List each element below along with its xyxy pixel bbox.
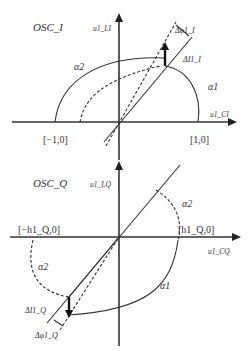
- point-left-label: [−1,0]: [43, 134, 68, 145]
- delta-phi-label: Δφ1_I: [174, 26, 195, 35]
- x-axis-label: u1_CQ: [208, 247, 230, 256]
- alpha2-left-label: α2: [38, 261, 48, 272]
- y-axis-arrowhead-icon: [115, 13, 123, 22]
- point-right-label: [1,0]: [190, 134, 209, 145]
- thick-diagonal-segment: [69, 237, 119, 297]
- delta-phi-label: Δφ1_Q: [34, 331, 58, 340]
- alpha2-label: α2: [74, 61, 84, 72]
- delta-i-label: ΔI1_Q: [24, 306, 46, 315]
- dashed-arc: [80, 66, 160, 122]
- y-axis-arrowhead-icon: [115, 161, 123, 170]
- x-axis-arrowhead-icon: [228, 118, 237, 126]
- alpha1-label: α1: [208, 81, 218, 92]
- title-osc-q: OSC_Q: [33, 177, 67, 189]
- point-left-label: [−h1_Q,0]: [18, 224, 60, 235]
- phase-diagram: OSC_I u1_LI α2 α1 Δφ1_I ΔI1_I u1_CI [−1,…: [0, 0, 251, 351]
- delta-i-label: ΔI1_I: [182, 55, 201, 64]
- dashed-diagonal: [106, 22, 176, 146]
- alpha2-right-dashed: [156, 190, 180, 240]
- bottom-panel-osc-q: OSC_Q u1_LQ α2 [h1_Q,0] [−h1_Q,0] u1_CQ …: [10, 161, 241, 346]
- delta-i-arrowhead-icon: [65, 310, 73, 318]
- x-axis-arrowhead-icon: [232, 233, 241, 241]
- y-axis-label: u1_LQ: [90, 180, 111, 189]
- alpha2-left-dashed: [31, 240, 69, 297]
- alpha1-label: α1: [160, 280, 170, 291]
- alpha2-curve: [55, 58, 165, 122]
- delta-phi-tick: [54, 320, 63, 326]
- alpha1-curve: [68, 240, 178, 315]
- title-osc-i: OSC_I: [33, 21, 64, 33]
- point-right-label: [h1_Q,0]: [178, 224, 214, 235]
- alpha2-right-label: α2: [182, 198, 192, 209]
- delta-i-arrowhead-icon: [161, 42, 169, 50]
- alpha1-curve: [165, 66, 199, 122]
- top-panel-osc-i: OSC_I u1_LI α2 α1 Δφ1_I ΔI1_I u1_CI [−1,…: [12, 13, 237, 160]
- y-axis-label: u1_LI: [93, 24, 111, 33]
- x-axis-label: u1_CI: [210, 110, 229, 119]
